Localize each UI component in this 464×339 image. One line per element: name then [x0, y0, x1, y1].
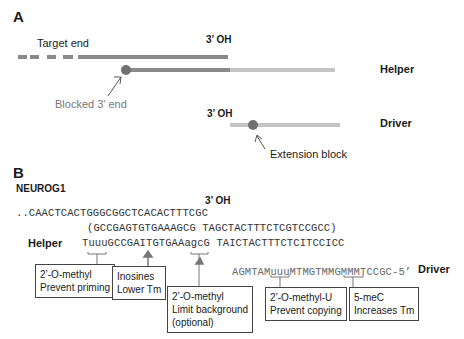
arrow-head-icon: [144, 251, 152, 257]
arrow-icon: [108, 77, 121, 96]
bracket-icon: [271, 275, 289, 287]
bracket-icon: [88, 252, 106, 264]
bracket-icon: [191, 252, 208, 286]
arrow-head-icon: [196, 258, 203, 264]
bracket-icon: [344, 275, 363, 287]
connector-lines: [0, 0, 464, 339]
